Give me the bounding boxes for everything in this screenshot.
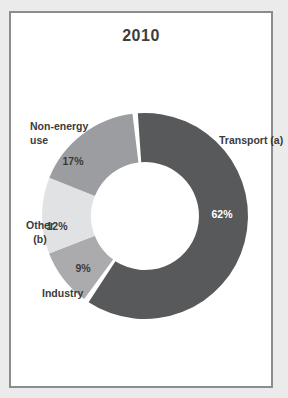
screenshot-root: 2010 62%9%12%17%Transport (a)IndustryOth… [0,0,288,398]
donut-chart [0,0,288,398]
